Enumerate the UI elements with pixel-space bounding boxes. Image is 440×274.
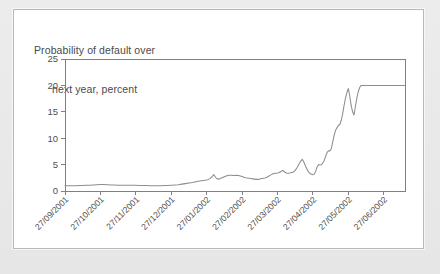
x-axis-ticks [65,191,384,195]
y-tick-label: 10 [47,133,58,144]
y-tick-label: 20 [47,80,58,91]
y-tick-label: 5 [53,159,58,170]
y-tick-label: 25 [47,53,58,64]
x-tick-label: 27/09/2001 [33,194,71,232]
figure-panel: Probability of default over next year, p… [13,9,424,249]
x-tick-label: 27/11/2001 [104,194,141,231]
x-tick-label: 27/01/2002 [175,194,213,232]
page-background: Probability of default over next year, p… [0,0,440,274]
y-tick-label: 15 [47,106,58,117]
data-series-group [65,85,405,185]
x-tick-label: 27/05/2002 [316,194,354,232]
x-tick-label: 27/06/2002 [352,194,390,232]
line-chart: 0510152025 27/09/200127/10/200127/11/200… [14,10,425,250]
x-axis-labels: 27/09/200127/10/200127/11/200127/12/2001… [33,194,389,232]
x-tick-label: 27/04/2002 [281,194,319,232]
axis-frame [65,59,405,191]
x-tick-label: 27/02/2002 [210,194,248,232]
plot-area: 0510152025 27/09/200127/10/200127/11/200… [14,10,425,250]
y-axis-labels: 0510152025 [47,53,58,196]
y-axis-ticks [61,59,65,191]
x-tick-label: 27/12/2001 [139,194,177,232]
x-tick-label: 27/10/2001 [68,194,106,232]
x-tick-label: 27/03/2002 [245,194,283,232]
y-tick-label: 0 [53,185,58,196]
series-line-probability-of-default [65,85,405,185]
